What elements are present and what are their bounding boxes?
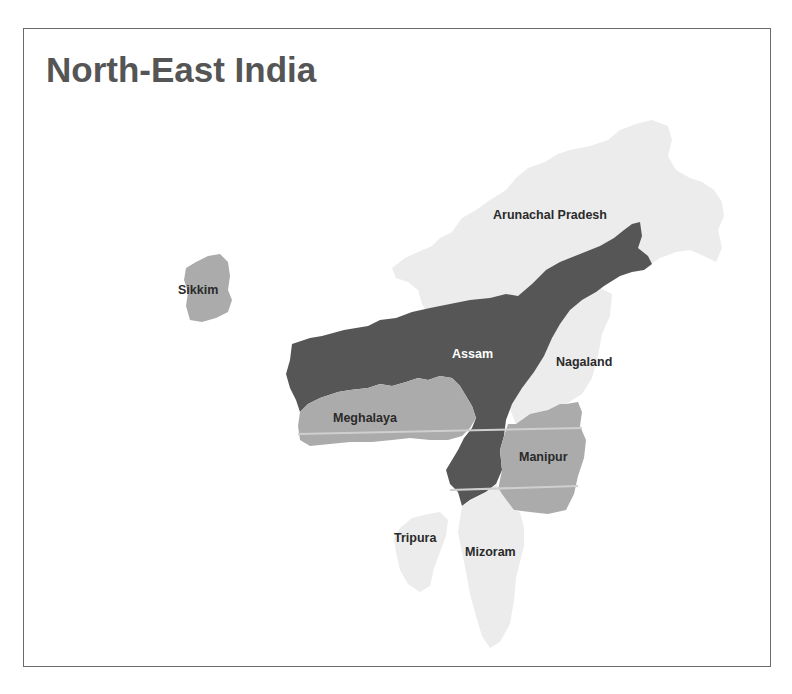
label-sikkim: Sikkim: [178, 283, 218, 297]
label-assam: Assam: [452, 347, 493, 361]
label-meghalaya: Meghalaya: [333, 411, 398, 425]
label-tripura: Tripura: [394, 531, 437, 545]
label-mizoram: Mizoram: [465, 545, 516, 559]
state-tripura[interactable]: [394, 512, 448, 592]
north-east-india-map: Arunachal Pradesh Sikkim Assam Nagaland …: [0, 0, 792, 694]
label-arunachal-pradesh: Arunachal Pradesh: [493, 208, 607, 222]
label-manipur: Manipur: [519, 450, 568, 464]
label-nagaland: Nagaland: [556, 355, 612, 369]
